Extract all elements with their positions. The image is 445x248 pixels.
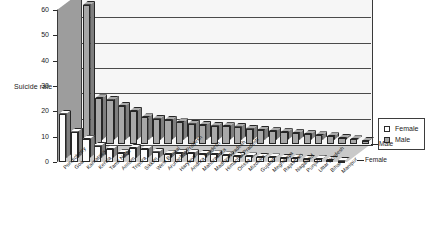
bar-male-6[interactable]	[153, 119, 160, 144]
bar-male-4[interactable]	[130, 111, 137, 144]
bar-male-22[interactable]	[338, 138, 345, 144]
bar-male-0[interactable]	[83, 5, 90, 144]
y-tick-label-40: 40	[33, 57, 49, 64]
y-tick-mark-50	[53, 35, 57, 36]
bar-side-male-4	[137, 107, 142, 140]
y-tick-mark-40	[53, 61, 57, 62]
bar-side-male-6	[160, 115, 165, 140]
bar-male-17[interactable]	[280, 132, 287, 144]
y-tick-label-20: 20	[33, 107, 49, 114]
y-tick-mark-10	[53, 137, 57, 138]
y-tick-mark-20	[53, 111, 57, 112]
bar-male-5[interactable]	[141, 117, 148, 144]
chart-canvas: Suicide rate Female Male 0102030405060Po…	[0, 0, 445, 248]
bar-male-24[interactable]	[362, 141, 369, 144]
bar-male-3[interactable]	[118, 106, 125, 144]
bar-side-male-7	[172, 116, 177, 140]
y-tick-label-0: 0	[33, 158, 49, 165]
bar-male-23[interactable]	[350, 139, 357, 144]
y-tick-label-10: 10	[33, 133, 49, 140]
legend-label-female: Female	[395, 125, 418, 132]
bar-male-16[interactable]	[269, 131, 276, 144]
bar-male-8[interactable]	[176, 122, 183, 144]
y-tick-label-30: 30	[33, 82, 49, 89]
series-axis-label-female-leader	[357, 160, 364, 161]
legend-item-female: Female	[384, 123, 418, 134]
bar-male-1[interactable]	[95, 98, 102, 144]
y-tick-mark-30	[53, 86, 57, 87]
legend-swatch-female-icon	[384, 126, 390, 132]
bar-male-2[interactable]	[106, 100, 113, 144]
bar-male-19[interactable]	[304, 134, 311, 144]
bar-male-18[interactable]	[292, 133, 299, 144]
bar-side-male-5	[148, 113, 153, 140]
gridline-30	[81, 68, 371, 69]
bar-male-7[interactable]	[164, 120, 171, 144]
series-axis-label-male-leader	[371, 144, 378, 145]
bar-side-female-0	[66, 110, 71, 158]
bar-side-female-2	[90, 135, 95, 158]
y-tick-mark-60	[53, 10, 57, 11]
gridline-20	[81, 93, 371, 94]
bar-side-male-2	[114, 96, 119, 140]
y-tick-mark-0	[53, 162, 57, 163]
legend-label-male: Male	[395, 136, 410, 143]
series-axis-label-female: Female	[365, 156, 387, 163]
bar-male-12[interactable]	[222, 126, 229, 144]
gridline-50	[81, 17, 371, 18]
y-tick-label-60: 60	[33, 6, 49, 13]
y-tick-label-50: 50	[33, 31, 49, 38]
series-axis-label-male: Male	[379, 140, 393, 147]
bar-side-male-0	[90, 1, 95, 140]
bar-female-0[interactable]	[59, 114, 66, 162]
bar-side-male-3	[125, 102, 130, 140]
bar-male-20[interactable]	[315, 135, 322, 144]
bar-side-male-1	[102, 94, 107, 140]
gridline-40	[81, 43, 371, 44]
bar-male-21[interactable]	[327, 136, 334, 144]
